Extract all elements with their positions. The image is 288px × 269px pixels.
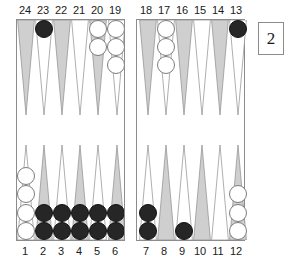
point-number-label: 10 bbox=[191, 243, 209, 259]
checker-white[interactable] bbox=[157, 56, 175, 74]
point-number-label: 16 bbox=[173, 2, 191, 18]
checker-black[interactable] bbox=[139, 204, 157, 222]
point-number-label: 1 bbox=[16, 243, 34, 259]
point-number-label: 23 bbox=[34, 2, 52, 18]
checker-black[interactable] bbox=[107, 204, 125, 222]
board-bar[interactable] bbox=[124, 19, 137, 241]
point-number-label: 7 bbox=[137, 243, 155, 259]
checker-black[interactable] bbox=[89, 204, 107, 222]
point-number-label: 19 bbox=[106, 2, 124, 18]
checker-white[interactable] bbox=[157, 38, 175, 56]
number-row-gap bbox=[124, 243, 137, 259]
checker-black[interactable] bbox=[35, 204, 53, 222]
point-number-label: 20 bbox=[88, 2, 106, 18]
point-number-label: 24 bbox=[16, 2, 34, 18]
checker-black[interactable] bbox=[175, 222, 193, 240]
point-14[interactable] bbox=[211, 20, 229, 116]
backgammon-board: 242322212019181716151413 123456789101112… bbox=[0, 0, 288, 269]
point-number-label: 17 bbox=[155, 2, 173, 18]
point-22[interactable] bbox=[53, 20, 71, 116]
checker-black[interactable] bbox=[35, 222, 53, 240]
point-number-label: 5 bbox=[88, 243, 106, 259]
point-numbers-top: 242322212019181716151413 bbox=[16, 2, 245, 18]
point-number-label: 9 bbox=[173, 243, 191, 259]
point-number-label: 14 bbox=[209, 2, 227, 18]
checker-black[interactable] bbox=[139, 222, 157, 240]
checker-white[interactable] bbox=[229, 222, 247, 240]
checker-black[interactable] bbox=[229, 20, 247, 38]
number-row-gap bbox=[124, 2, 137, 18]
point-21[interactable] bbox=[71, 20, 89, 116]
checker-white[interactable] bbox=[17, 204, 35, 222]
point-15[interactable] bbox=[193, 20, 211, 116]
checker-black[interactable] bbox=[71, 222, 89, 240]
point-11[interactable] bbox=[211, 144, 229, 240]
checker-white[interactable] bbox=[229, 204, 247, 222]
point-number-label: 18 bbox=[137, 2, 155, 18]
point-24[interactable] bbox=[17, 20, 35, 116]
checker-white[interactable] bbox=[17, 167, 35, 185]
doubling-cube-value: 2 bbox=[267, 29, 276, 49]
checker-white[interactable] bbox=[157, 20, 175, 38]
point-number-label: 11 bbox=[209, 243, 227, 259]
point-number-label: 12 bbox=[227, 243, 245, 259]
checker-black[interactable] bbox=[89, 222, 107, 240]
point-18[interactable] bbox=[139, 20, 157, 116]
point-number-label: 2 bbox=[34, 243, 52, 259]
checker-black[interactable] bbox=[53, 222, 71, 240]
point-numbers-bottom: 123456789101112 bbox=[16, 243, 245, 259]
point-16[interactable] bbox=[175, 20, 193, 116]
checker-black[interactable] bbox=[71, 204, 89, 222]
checker-white[interactable] bbox=[17, 222, 35, 240]
checker-black[interactable] bbox=[53, 204, 71, 222]
point-8[interactable] bbox=[157, 144, 175, 240]
point-number-label: 4 bbox=[70, 243, 88, 259]
doubling-cube[interactable]: 2 bbox=[258, 22, 284, 55]
point-number-label: 15 bbox=[191, 2, 209, 18]
point-number-label: 6 bbox=[106, 243, 124, 259]
point-number-label: 13 bbox=[227, 2, 245, 18]
point-number-label: 22 bbox=[52, 2, 70, 18]
point-10[interactable] bbox=[193, 144, 211, 240]
point-number-label: 21 bbox=[70, 2, 88, 18]
point-number-label: 8 bbox=[155, 243, 173, 259]
point-number-label: 3 bbox=[52, 243, 70, 259]
checker-black[interactable] bbox=[35, 20, 53, 38]
